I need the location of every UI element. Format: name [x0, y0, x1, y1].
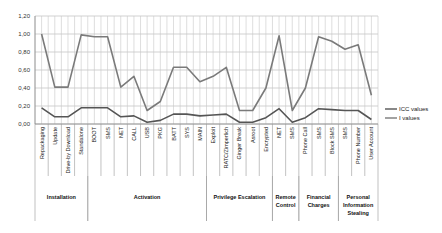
x-category-label: SMS	[289, 127, 295, 139]
y-tick-label: 0,60	[18, 67, 30, 73]
x-axis-groups: InstallationActivationPrivilege Escalati…	[35, 176, 378, 221]
group-label: Control	[276, 202, 296, 208]
x-category-label: SMS	[342, 127, 348, 139]
x-category-label: Repackaging	[39, 127, 45, 159]
x-category-label: User Account	[368, 127, 374, 160]
group-label: Information	[343, 202, 374, 208]
group-label: Remote	[276, 194, 296, 200]
x-category-label: USB	[144, 127, 150, 139]
x-category-label: CALL	[131, 127, 137, 141]
y-tick-label: 1,00	[18, 31, 30, 37]
x-category-label: Update	[52, 127, 58, 145]
y-tick-label: 1,20	[18, 13, 30, 19]
y-tick-label: 0,00	[18, 121, 30, 127]
group-label: Charges	[308, 202, 330, 208]
x-category-label: Encrypted	[263, 127, 269, 152]
group-label: Personal	[347, 194, 371, 200]
x-category-label: Phone Number	[355, 127, 361, 164]
x-category-label: Asroot	[250, 127, 256, 143]
x-category-label: Drive-by Download	[65, 127, 71, 173]
y-tick-label: 0,40	[18, 85, 30, 91]
x-category-label: BATT	[171, 126, 177, 140]
y-axis: 0,000,200,400,600,801,001,20	[18, 13, 35, 127]
x-category-label: Exploit	[210, 127, 216, 144]
group-label: Stealing	[348, 210, 369, 216]
x-category-label: MAIN	[197, 127, 203, 141]
x-category-label: Block SMS	[329, 127, 335, 154]
x-axis: RepackagingUpdateDrive-by DownloadStanda…	[35, 124, 378, 176]
line-chart: 0,000,200,400,600,801,001,20 Repackaging…	[0, 0, 442, 233]
x-category-label: BOOT	[91, 126, 97, 142]
chart-legend: ICC valuesI values	[385, 106, 428, 121]
x-category-label: RATC/Zimperlich	[223, 127, 229, 168]
legend-label: I values	[399, 115, 420, 121]
x-category-label: NET	[118, 126, 124, 138]
y-tick-label: 0,80	[18, 49, 30, 55]
y-tick-label: 0,20	[18, 103, 30, 109]
x-category-label: Standalone	[78, 127, 84, 155]
group-label: Activation	[134, 194, 161, 200]
x-category-label: Ginger Break	[236, 127, 242, 160]
group-label: Installation	[47, 194, 77, 200]
group-label: Financial	[307, 194, 331, 200]
x-category-label: SMS	[316, 127, 322, 139]
x-category-label: SMS	[105, 127, 111, 139]
x-category-label: NET	[276, 126, 282, 138]
x-category-label: SYS	[184, 127, 190, 138]
x-category-label: PKG	[157, 127, 163, 139]
group-label: Privilege Escalation	[213, 194, 266, 200]
x-category-label: Phone Call	[302, 127, 308, 154]
legend-label: ICC values	[399, 106, 428, 112]
